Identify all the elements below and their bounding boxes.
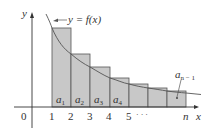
- bar-label-a4: a4: [113, 94, 122, 107]
- curve-label: y = f(x): [68, 14, 101, 25]
- tick-3: 3: [87, 111, 93, 122]
- tick-4: 4: [106, 111, 112, 122]
- tick-5: 5: [126, 111, 132, 122]
- origin-label: 0: [21, 111, 27, 122]
- tick-1: 1: [49, 111, 55, 122]
- y-axis-label: y: [22, 8, 27, 19]
- x-axis-arrow-icon: [194, 105, 199, 109]
- riemann-sum-diagram: y y = f(x) 0 1 2 3 4 5 · · · n x a1 a2 a…: [0, 0, 209, 128]
- tick-2: 2: [68, 111, 74, 122]
- pointer-arrow-icon: [53, 19, 58, 23]
- bar-an-1: [167, 91, 186, 107]
- x-axis-label: x: [196, 111, 201, 122]
- tick-ellipsis: · · ·: [136, 111, 148, 119]
- bar-label-a3: a3: [94, 94, 103, 107]
- diagram-canvas: [0, 0, 209, 128]
- tick-n: n: [183, 111, 189, 122]
- y-axis-arrow-icon: [30, 12, 34, 18]
- an-1-dot: [176, 97, 178, 99]
- bar-label-a2: a2: [75, 94, 84, 107]
- bar-label-an-1: an − 1: [175, 69, 195, 82]
- bar-label-a1: a1: [56, 94, 65, 107]
